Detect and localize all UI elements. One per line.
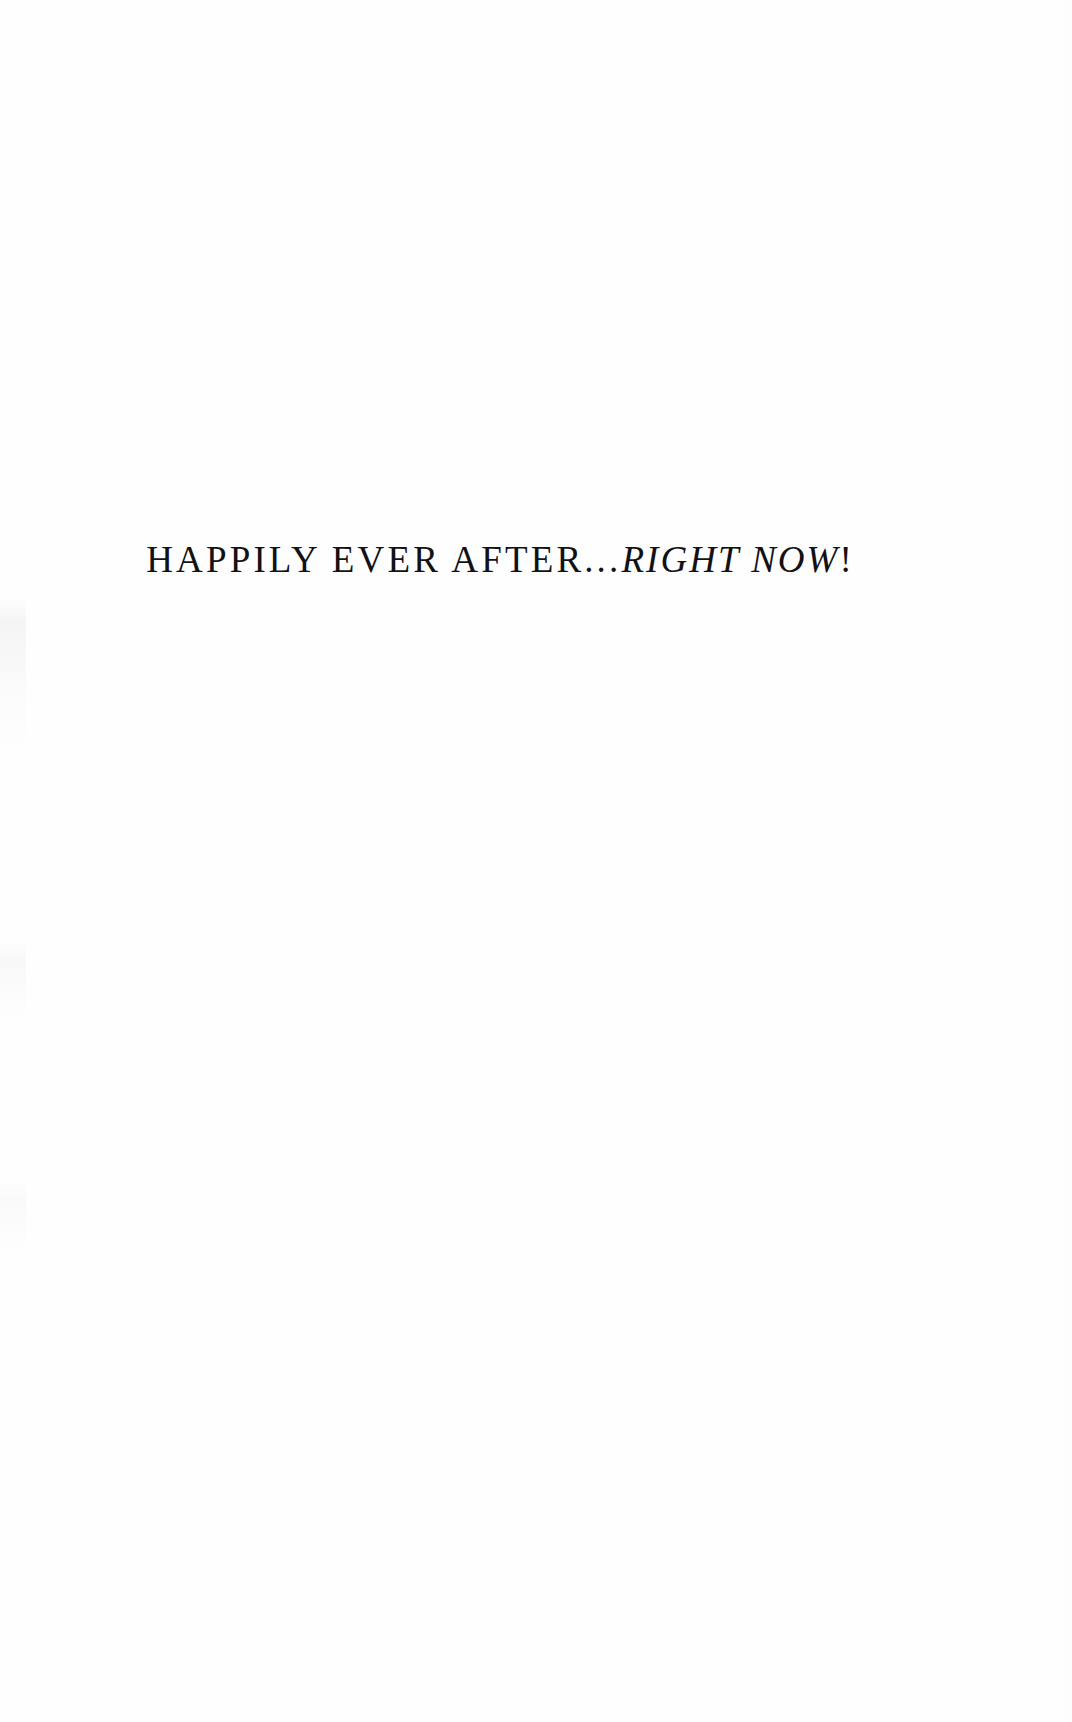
chapter-title-block: HAPPILY EVER AFTER...RIGHT NOW!	[0, 541, 1072, 578]
page-title-roman-segment: HAPPILY EVER AFTER...	[146, 539, 621, 580]
page-title-exclamation-mark: !	[839, 539, 851, 580]
scan-artifact-right-edge	[1058, 0, 1072, 1722]
page-title-italic-segment: RIGHT NOW	[621, 539, 839, 580]
book-page: HAPPILY EVER AFTER...RIGHT NOW!	[0, 0, 1072, 1722]
scan-artifact-left-edge	[0, 0, 26, 1722]
page-title: HAPPILY EVER AFTER...RIGHT NOW!	[0, 541, 1072, 578]
